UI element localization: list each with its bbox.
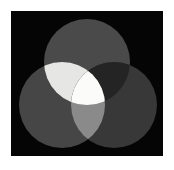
venn-diagram-figure <box>0 0 174 170</box>
plot-panel <box>11 11 163 156</box>
venn-svg <box>11 11 163 156</box>
